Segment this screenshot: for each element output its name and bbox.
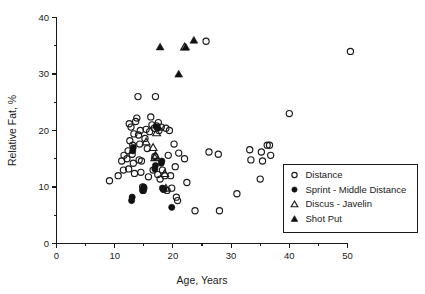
data-point (145, 174, 151, 180)
legend-entry-sprint-middle-distance[interactable]: Sprint - Middle Distance (292, 184, 406, 195)
data-point (135, 94, 141, 100)
data-point (347, 48, 353, 54)
x-tick-label: 50 (342, 250, 353, 261)
legend-label: Distance (306, 169, 343, 180)
data-point (138, 169, 144, 175)
data-point (248, 157, 254, 163)
data-point (192, 208, 198, 214)
data-point (268, 152, 274, 158)
y-axis-title: Relative Fat, % (6, 95, 18, 166)
data-point (130, 144, 136, 150)
data-point (258, 149, 264, 155)
data-point (190, 36, 198, 43)
data-point (171, 141, 177, 147)
data-point (259, 158, 265, 164)
data-point (165, 152, 171, 158)
data-point (234, 191, 240, 197)
x-tick-label: 0 (54, 250, 59, 261)
data-point (141, 184, 147, 190)
legend: DistanceSprint - Middle DistanceDiscus -… (284, 165, 418, 233)
data-point (216, 208, 222, 214)
data-point (156, 43, 164, 50)
data-point (127, 138, 133, 144)
data-point (257, 176, 263, 182)
data-point (148, 114, 154, 120)
y-tick-label: 0 (44, 238, 49, 249)
series-shot-put (156, 36, 198, 77)
legend-marker-icon (292, 187, 297, 192)
data-point (203, 38, 209, 44)
data-point (206, 149, 212, 155)
legend-label: Discus - Javelin (306, 198, 373, 209)
legend-label: Sprint - Middle Distance (306, 184, 407, 195)
data-point (176, 150, 182, 156)
legend-label: Shot Put (306, 213, 343, 224)
data-point (172, 164, 178, 170)
plot-canvas: DistanceSprint - Middle DistanceDiscus -… (0, 0, 425, 294)
data-point (181, 156, 187, 162)
x-tick-label: 10 (109, 250, 120, 261)
data-point (131, 170, 137, 176)
data-point (175, 70, 183, 77)
data-point (137, 141, 143, 147)
data-point (169, 204, 175, 210)
y-tick-label: 40 (38, 12, 49, 23)
data-point (152, 94, 158, 100)
x-tick-label: 40 (284, 250, 295, 261)
y-tick-label: 30 (38, 68, 49, 79)
y-tick-label: 10 (38, 181, 49, 192)
data-point (130, 160, 136, 166)
data-point (115, 173, 121, 179)
y-tick-label: 20 (38, 125, 49, 136)
data-point (247, 147, 253, 153)
data-point (152, 162, 158, 168)
x-tick-label: 30 (226, 250, 237, 261)
data-point (106, 178, 112, 184)
x-axis-title: Age, Years (177, 274, 228, 286)
axis-labels: 01020304001020304050Age, YearsRelative F… (6, 12, 353, 286)
x-tick-label: 20 (168, 250, 179, 261)
data-point (215, 151, 221, 157)
data-point (286, 110, 292, 116)
data-point (129, 194, 135, 200)
scatter-plot-figure: DistanceSprint - Middle DistanceDiscus -… (0, 0, 425, 294)
data-point (184, 179, 190, 185)
